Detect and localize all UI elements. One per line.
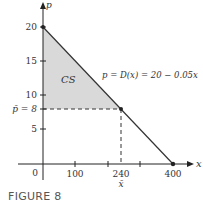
x-tick-400: 400 (164, 169, 181, 179)
demand-equation-label: p = D(x) = 20 − 0.05x (102, 70, 198, 80)
y-tick-5: 5 (31, 124, 37, 134)
y-tick-8: p̄ = 8 (12, 104, 37, 114)
x-tick-100: 100 (66, 169, 83, 179)
x-axis-label: x (196, 158, 202, 169)
x-axis-arrow-icon (187, 161, 194, 167)
demand-curve-chart: p x 20 15 10 p̄ = 8 5 0 100 240 x̄ 400 C… (0, 0, 203, 190)
point-x-intercept (171, 162, 175, 166)
point-equilibrium (119, 107, 123, 111)
y-tick-10: 10 (26, 90, 38, 100)
figure-caption: FIGURE 8 (8, 190, 62, 203)
x-bar-label: x̄ (118, 179, 123, 189)
y-tick-20: 20 (26, 22, 38, 32)
y-tick-15: 15 (26, 56, 38, 66)
x-tick-240: 240 (112, 169, 129, 179)
point-y-intercept (41, 25, 45, 29)
consumer-surplus-label: CS (61, 74, 76, 85)
origin-label: 0 (32, 168, 38, 178)
y-axis-label: p (46, 0, 52, 10)
